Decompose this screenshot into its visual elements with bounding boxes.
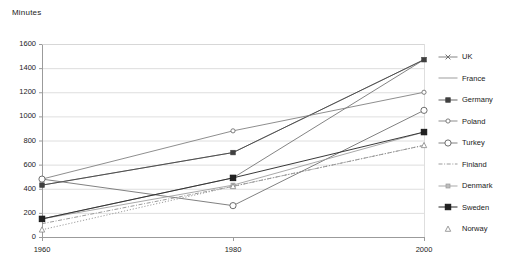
series-poland (40, 90, 426, 181)
legend-label: Norway (462, 225, 487, 233)
x-tick-label: 1980 (203, 245, 263, 254)
data-point-marker (445, 226, 450, 231)
legend-label: Germany (462, 96, 493, 104)
legend-item-uk[interactable]: UK (437, 46, 507, 68)
legend-label: Poland (462, 118, 485, 126)
data-point-marker (39, 227, 44, 232)
legend-item-germany[interactable]: Germany (437, 89, 507, 111)
chart-legend: UKFranceGermanyPolandTurkeyFinlandDenmar… (437, 46, 507, 240)
legend-label: UK (462, 53, 472, 61)
legend-label: France (462, 75, 485, 83)
data-point-marker (39, 176, 45, 182)
y-tick-label: 0 (0, 232, 36, 241)
series-line (42, 60, 424, 185)
series-uk (40, 57, 427, 221)
y-tick-label: 600 (0, 160, 36, 169)
legend-item-norway[interactable]: Norway (437, 218, 507, 240)
data-point-marker (230, 175, 236, 181)
legend-label: Finland (462, 161, 487, 169)
y-tick-label: 400 (0, 184, 36, 193)
bottom-caption (0, 259, 507, 267)
data-point-marker (231, 150, 236, 155)
data-point-marker (445, 204, 451, 210)
legend-item-poland[interactable]: Poland (437, 111, 507, 133)
y-tick-label: 800 (0, 136, 36, 145)
legend-item-turkey[interactable]: Turkey (437, 132, 507, 154)
data-point-marker (421, 142, 426, 147)
data-point-marker (422, 90, 426, 94)
legend-symbol-uk-icon (437, 51, 459, 63)
data-point-marker (446, 97, 451, 102)
legend-label: Sweden (462, 204, 489, 212)
legend-symbol-france-icon (437, 72, 459, 84)
legend-symbol-finland-icon (437, 158, 459, 170)
data-point-marker (230, 203, 236, 209)
legend-symbol-turkey-icon (437, 137, 459, 149)
data-point-marker (446, 184, 450, 188)
line-chart: Minutes 02004006008001000120014001600 19… (0, 0, 507, 267)
legend-symbol-poland-icon (437, 115, 459, 127)
legend-symbol-norway-icon (437, 223, 459, 235)
data-point-marker (445, 140, 451, 146)
data-point-marker (446, 119, 450, 123)
series-turkey (39, 107, 427, 208)
data-point-marker (231, 129, 235, 133)
series-norway (39, 142, 426, 232)
data-point-marker (421, 107, 427, 113)
data-point-marker (39, 216, 45, 222)
y-tick-label: 1600 (0, 39, 36, 48)
legend-label: Denmark (462, 182, 492, 190)
x-tick-label: 2000 (394, 245, 454, 254)
legend-symbol-sweden-icon (437, 201, 459, 213)
series-line (42, 60, 424, 185)
data-point-marker (40, 183, 45, 188)
legend-item-sweden[interactable]: Sweden (437, 197, 507, 219)
data-point-marker (422, 57, 427, 62)
y-tick-label: 1000 (0, 111, 36, 120)
legend-label: Turkey (462, 139, 485, 147)
x-tick-label: 1960 (12, 245, 72, 254)
legend-item-france[interactable]: France (437, 68, 507, 90)
y-tick-label: 1200 (0, 87, 36, 96)
y-tick-label: 200 (0, 208, 36, 217)
series-germany (40, 57, 427, 187)
plot-area (0, 0, 507, 267)
legend-item-denmark[interactable]: Denmark (437, 175, 507, 197)
legend-symbol-germany-icon (437, 94, 459, 106)
series-france (42, 60, 424, 185)
y-tick-label: 1400 (0, 63, 36, 72)
legend-item-finland[interactable]: Finland (437, 154, 507, 176)
legend-symbol-denmark-icon (437, 180, 459, 192)
data-point-marker (421, 129, 427, 135)
series-line (42, 92, 424, 179)
